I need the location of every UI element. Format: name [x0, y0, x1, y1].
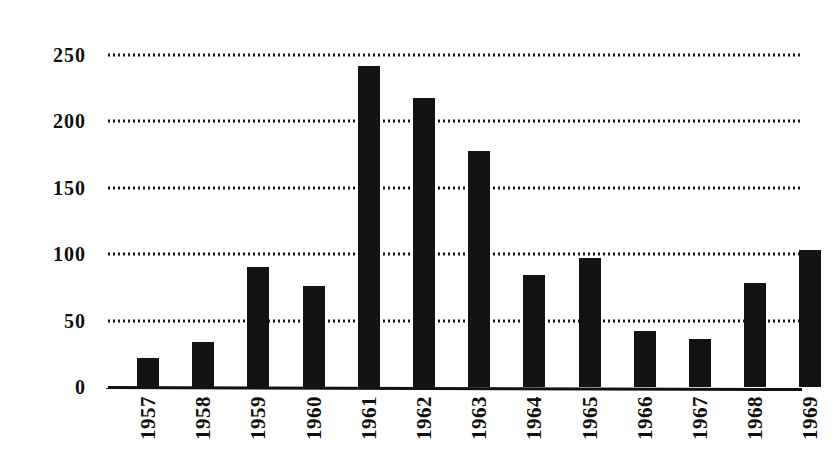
x-axis-tick-label: 1958: [193, 396, 214, 440]
x-axis-tick: 1969: [799, 392, 821, 475]
x-axis: 1957195819591960196119621963196419651966…: [108, 392, 800, 475]
bar: [634, 331, 656, 387]
bar: [744, 283, 766, 387]
y-axis-tick-label: 100: [0, 244, 86, 264]
x-axis-tick-label: 1968: [745, 396, 766, 440]
bar: [192, 342, 214, 387]
x-axis-tick: 1964: [523, 392, 545, 475]
x-axis-tick: 1967: [689, 392, 711, 475]
bar: [468, 151, 490, 387]
x-axis-tick-label: 1963: [469, 396, 490, 440]
x-axis-tick-label: 1961: [358, 396, 379, 440]
x-axis-tick: 1968: [744, 392, 766, 475]
x-axis-tick-label: 1962: [414, 396, 435, 440]
x-axis-tick-label: 1957: [138, 396, 159, 440]
x-axis-tick: 1963: [468, 392, 490, 475]
y-axis-tick-label: 50: [0, 311, 86, 331]
x-axis-tick-label: 1969: [800, 396, 821, 440]
x-axis-tick: 1960: [303, 392, 325, 475]
x-axis-tick-label: 1964: [524, 396, 545, 440]
x-axis-tick: 1966: [634, 392, 656, 475]
bar: [303, 286, 325, 387]
bar: [358, 66, 380, 387]
x-axis-tick: 1965: [579, 392, 601, 475]
x-axis-tick: 1958: [192, 392, 214, 475]
x-axis-tick-label: 1959: [248, 396, 269, 440]
y-axis-tick-label: 0: [0, 377, 86, 397]
x-axis-tick-label: 1965: [579, 396, 600, 440]
y-axis-tick-label: 200: [0, 111, 86, 131]
bar: [689, 339, 711, 387]
bar: [137, 358, 159, 387]
x-axis-tick: 1961: [358, 392, 380, 475]
x-axis-tick: 1959: [247, 392, 269, 475]
x-axis-tick-label: 1960: [303, 396, 324, 440]
x-axis-tick-label: 1967: [690, 396, 711, 440]
bar: [579, 258, 601, 387]
bar-chart: 050100150200250 195719581959196019611962…: [0, 0, 836, 475]
bar: [523, 275, 545, 387]
y-axis-tick-label: 150: [0, 178, 86, 198]
x-axis-tick: 1962: [413, 392, 435, 475]
x-axis-tick: 1957: [137, 392, 159, 475]
x-axis-tick-label: 1966: [634, 396, 655, 440]
bar: [413, 98, 435, 388]
y-axis: 050100150200250: [0, 0, 86, 475]
bar: [247, 267, 269, 387]
bar: [799, 250, 821, 387]
y-axis-tick-label: 250: [0, 45, 86, 65]
